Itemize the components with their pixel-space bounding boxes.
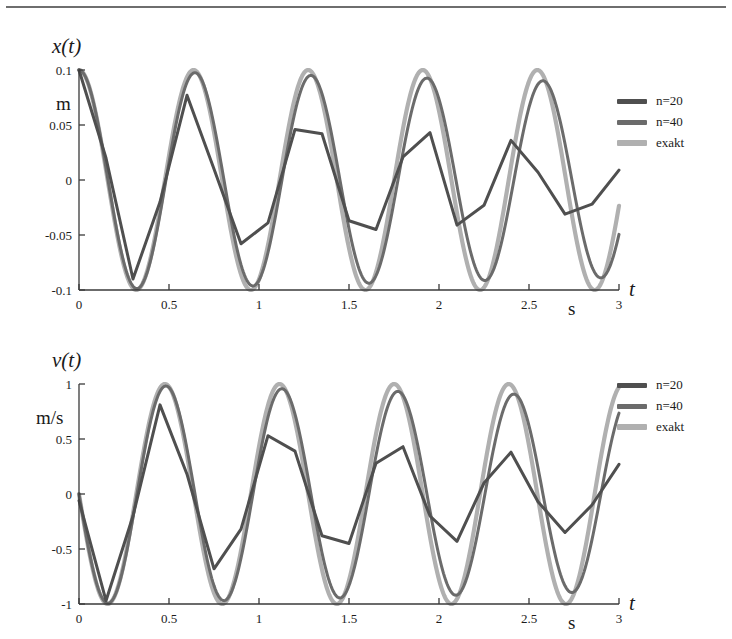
velocity-xtick-label: 2.5 xyxy=(521,612,537,625)
position-ytick-label: 0 xyxy=(28,174,72,187)
velocity-ytick-label: -1 xyxy=(28,598,72,611)
position-xtick-label: 0 xyxy=(76,298,83,311)
legend-item-exakt: exakt xyxy=(617,418,729,436)
series-exakt xyxy=(79,70,619,290)
legend-swatch-n40 xyxy=(617,404,647,409)
position-x-axis-name: t xyxy=(629,279,635,300)
legend-swatch-n20 xyxy=(617,99,647,104)
position-y-axis-unit: m xyxy=(56,94,71,113)
legend-label-n20: n=20 xyxy=(656,93,683,109)
velocity-y-axis-unit: m/s xyxy=(36,408,63,427)
velocity-x-axis-name: t xyxy=(629,593,635,614)
velocity-xtick-label: 3 xyxy=(616,612,623,625)
velocity-y-axis-name: v(t) xyxy=(52,350,81,371)
header-rule xyxy=(6,6,726,8)
legend-item-n20: n=20 xyxy=(617,92,729,110)
legend-item-n20: n=20 xyxy=(617,376,729,394)
position-x-axis-unit: s xyxy=(568,299,575,318)
legend-swatch-n20 xyxy=(617,383,647,388)
velocity-legend: n=20 n=40 exakt xyxy=(617,376,729,439)
position-plot-svg xyxy=(0,14,732,333)
position-xtick-label: 1 xyxy=(256,298,263,311)
legend-item-n40: n=40 xyxy=(617,113,729,131)
legend-swatch-n40 xyxy=(617,120,647,125)
position-xtick-label: 2.5 xyxy=(521,298,537,311)
velocity-xtick-label: 0.5 xyxy=(161,612,177,625)
velocity-ytick-label: 0 xyxy=(28,488,72,501)
position-ytick-label: 0.05 xyxy=(28,119,72,132)
velocity-ytick-label: 1 xyxy=(28,378,72,391)
legend-label-n40: n=40 xyxy=(656,114,683,130)
position-legend: n=20 n=40 exakt xyxy=(617,92,729,155)
velocity-plot-svg xyxy=(0,328,732,639)
velocity-xtick-label: 2 xyxy=(436,612,443,625)
figure-root: x(t) m t s 0.1 0.05 0 -0.05 -0.1 0 0.5 1… xyxy=(0,0,732,639)
legend-label-exakt: exakt xyxy=(656,135,684,151)
velocity-ytick-label: -0.5 xyxy=(28,543,72,556)
legend-swatch-exakt xyxy=(617,424,647,430)
velocity-x-axis-unit: s xyxy=(568,613,575,632)
chart-panel-velocity: v(t) m/s t s 1 0.5 0 -0.5 -1 0 0.5 1 1.5… xyxy=(0,328,732,639)
position-xtick-label: 2 xyxy=(436,298,443,311)
legend-item-exakt: exakt xyxy=(617,134,729,152)
legend-label-exakt: exakt xyxy=(656,419,684,435)
position-xtick-label: 0.5 xyxy=(161,298,177,311)
velocity-ytick-label: 0.5 xyxy=(28,433,72,446)
legend-label-n20: n=20 xyxy=(656,377,683,393)
legend-label-n40: n=40 xyxy=(656,398,683,414)
position-ytick-label: -0.1 xyxy=(28,284,72,297)
legend-item-n40: n=40 xyxy=(617,397,729,415)
position-y-axis-name: x(t) xyxy=(52,36,81,57)
velocity-xtick-label: 0 xyxy=(76,612,83,625)
velocity-xtick-label: 1 xyxy=(256,612,263,625)
series-n20 xyxy=(79,405,619,601)
position-xtick-label: 1.5 xyxy=(341,298,357,311)
velocity-xtick-label: 1.5 xyxy=(341,612,357,625)
series-exakt xyxy=(79,384,619,604)
chart-panel-position: x(t) m t s 0.1 0.05 0 -0.05 -0.1 0 0.5 1… xyxy=(0,14,732,333)
position-ytick-label: -0.05 xyxy=(28,229,72,242)
legend-swatch-exakt xyxy=(617,140,647,146)
position-xtick-label: 3 xyxy=(616,298,623,311)
position-ytick-label: 0.1 xyxy=(28,64,72,77)
